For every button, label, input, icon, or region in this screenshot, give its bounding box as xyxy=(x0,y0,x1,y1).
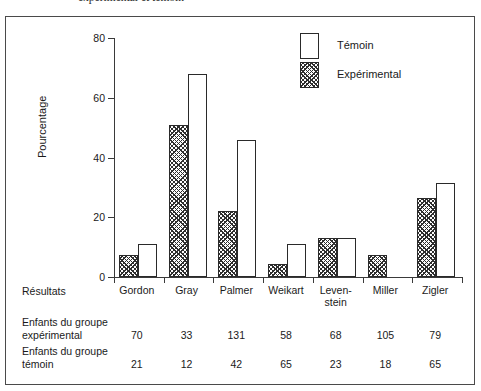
bar-experimental[interactable] xyxy=(218,211,237,277)
table-cell-temoin: 12 xyxy=(164,358,210,370)
x-axis-tick-mark xyxy=(363,277,364,283)
x-axis-tick-mark xyxy=(114,277,115,283)
y-axis-tick-label: 80 xyxy=(93,32,105,44)
table-cell-temoin: 42 xyxy=(213,358,259,370)
x-axis-tick-mark xyxy=(164,277,165,283)
legend-label-experimental: Expérimental xyxy=(337,68,401,80)
bar-group xyxy=(164,38,214,277)
x-axis-category-label: Palmer xyxy=(211,285,261,297)
table-cell-experimental: 131 xyxy=(213,329,259,341)
y-axis-tick-label: 0 xyxy=(99,271,105,283)
bar-group xyxy=(213,38,263,277)
x-axis-tick-mark xyxy=(313,277,314,283)
bar-experimental[interactable] xyxy=(169,125,188,277)
bar-group xyxy=(114,38,164,277)
bar-temoin[interactable] xyxy=(436,183,455,277)
y-axis-tick-label: 20 xyxy=(93,211,105,223)
bar-temoin[interactable] xyxy=(138,244,157,277)
figure-caption-strip: expérimental et témoin xyxy=(0,0,481,15)
x-axis-category-label: Gray xyxy=(162,285,212,297)
plot-area xyxy=(114,38,462,277)
bar-temoin[interactable] xyxy=(287,244,306,277)
table-cell-experimental: 79 xyxy=(412,329,458,341)
x-axis-tick-mark xyxy=(213,277,214,283)
x-axis-category-label: Miller xyxy=(361,285,411,297)
bar-experimental[interactable] xyxy=(417,198,436,277)
table-cell-temoin: 18 xyxy=(362,358,408,370)
table-row-header-temoin: Enfants du groupe témoin xyxy=(22,345,108,370)
y-axis-tick-label: 40 xyxy=(93,152,105,164)
x-axis-tick-mark xyxy=(412,277,413,283)
legend-label-temoin: Témoin xyxy=(337,39,374,51)
x-axis-category-label: Leven- stein xyxy=(311,285,361,308)
table-cell-temoin: 21 xyxy=(114,358,160,370)
bar-experimental[interactable] xyxy=(119,255,138,277)
table-cell-experimental: 33 xyxy=(164,329,210,341)
table-row-header-experimental: Enfants du groupe expérimental xyxy=(22,316,108,341)
bar-temoin[interactable] xyxy=(337,238,356,277)
x-axis-category-label: Zigler xyxy=(410,285,460,297)
y-axis-tick-label: 60 xyxy=(93,92,105,104)
bar-group xyxy=(412,38,462,277)
results-row-label: Résultats xyxy=(22,285,66,297)
table-cell-experimental: 68 xyxy=(313,329,359,341)
bar-temoin[interactable] xyxy=(237,140,256,277)
x-axis-line xyxy=(114,277,462,278)
table-cell-temoin: 65 xyxy=(412,358,458,370)
bar-experimental[interactable] xyxy=(318,238,337,277)
y-axis-title: Pourcentage xyxy=(36,96,48,158)
x-axis-category-label: Gordon xyxy=(112,285,162,297)
table-cell-temoin: 23 xyxy=(313,358,359,370)
bar-experimental[interactable] xyxy=(368,255,387,277)
x-axis-tick-mark xyxy=(462,277,463,283)
table-cell-experimental: 70 xyxy=(114,329,160,341)
table-cell-temoin: 65 xyxy=(263,358,309,370)
table-cell-experimental: 105 xyxy=(362,329,408,341)
figure-caption: expérimental et témoin xyxy=(78,0,184,3)
legend-swatch-temoin-icon xyxy=(300,33,319,59)
legend-swatch-experimental-icon xyxy=(300,62,319,88)
x-axis-tick-mark xyxy=(263,277,264,283)
bar-temoin[interactable] xyxy=(188,74,207,277)
bar-experimental[interactable] xyxy=(268,264,287,277)
table-cell-experimental: 58 xyxy=(263,329,309,341)
x-axis-category-label: Weikart xyxy=(261,285,311,297)
